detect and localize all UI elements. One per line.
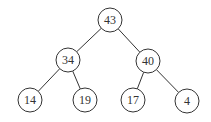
tree-canvas: 4334401419174	[0, 0, 211, 122]
tree-node: 34	[56, 48, 80, 72]
tree-edge	[73, 71, 81, 89]
tree-node: 14	[18, 88, 42, 112]
node-label: 34	[62, 53, 74, 67]
node-label: 14	[24, 93, 36, 107]
tree-node: 43	[98, 8, 122, 32]
nodes-layer: 4334401419174	[18, 8, 199, 113]
tree-node: 4	[175, 89, 199, 113]
node-label: 43	[104, 13, 116, 27]
node-label: 19	[79, 93, 91, 107]
tree-node: 40	[136, 49, 160, 73]
tree-node: 17	[121, 88, 145, 112]
tree-edge	[77, 28, 102, 51]
tree-edge	[118, 29, 140, 52]
tree-edge	[38, 69, 59, 92]
binary-tree-diagram: 4334401419174	[0, 0, 211, 122]
node-label: 17	[127, 93, 139, 107]
tree-node: 19	[73, 88, 97, 112]
node-label: 40	[142, 54, 154, 68]
node-label: 4	[184, 94, 190, 108]
tree-edge	[156, 70, 178, 93]
tree-edge	[137, 72, 143, 89]
